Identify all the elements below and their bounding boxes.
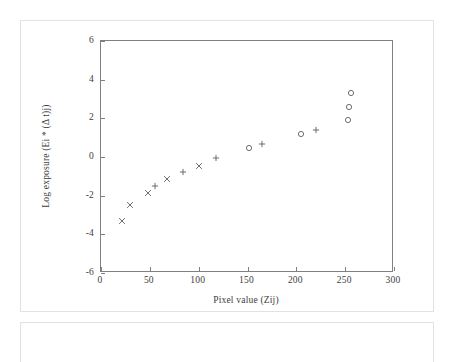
data-point-circle-markers (298, 131, 305, 138)
y-axis-tick (101, 118, 105, 119)
y-axis-tick-label: -4 (74, 228, 94, 238)
x-axis-tick-label: 200 (288, 275, 303, 285)
data-point-cross-markers (127, 202, 134, 209)
x-axis-tick (248, 267, 249, 271)
y-axis-title: Log exposure (Ei * (Δ t)j) (41, 104, 51, 207)
data-point-circle-markers (346, 103, 353, 110)
x-axis-tick-label: 300 (386, 275, 401, 285)
x-axis-tick (150, 267, 151, 271)
y-axis-tick (101, 196, 105, 197)
x-axis-tick (101, 267, 102, 271)
y-axis-tick (101, 157, 105, 158)
data-point-plus-markers (213, 154, 220, 161)
data-point-plus-markers (259, 141, 266, 148)
x-axis-tick (199, 267, 200, 271)
data-point-circle-markers (246, 145, 253, 152)
plot-area (100, 40, 393, 272)
x-axis-tick (345, 267, 346, 271)
data-point-plus-markers (312, 127, 319, 134)
data-point-cross-markers (119, 217, 126, 224)
data-point-plus-markers (151, 183, 158, 190)
y-axis-tick-label: 2 (74, 112, 94, 122)
x-axis-tick-label: 150 (239, 275, 254, 285)
x-axis-tick-label: 0 (98, 275, 103, 285)
x-axis-tick-label: 250 (337, 275, 352, 285)
y-axis-tick (101, 80, 105, 81)
data-point-plus-markers (180, 169, 187, 176)
y-axis-tick (101, 234, 105, 235)
x-axis-tick-label: 100 (190, 275, 205, 285)
y-axis-tick-label: 6 (74, 35, 94, 45)
y-axis-tick (101, 41, 105, 42)
y-axis-tick (101, 273, 105, 274)
y-axis-tick-label: 0 (74, 151, 94, 161)
data-point-cross-markers (195, 162, 202, 169)
scanned-page-frame-secondary (20, 322, 434, 362)
x-axis-title: Pixel value (Zij) (213, 295, 279, 305)
x-axis-tick (394, 267, 395, 271)
x-axis-tick (296, 267, 297, 271)
data-point-circle-markers (348, 90, 355, 97)
data-point-cross-markers (144, 189, 151, 196)
data-point-circle-markers (345, 116, 352, 123)
x-axis-tick-label: 50 (144, 275, 154, 285)
y-axis-tick-label: -2 (74, 190, 94, 200)
y-axis-tick-label: 4 (74, 74, 94, 84)
data-point-cross-markers (164, 176, 171, 183)
y-axis-tick-label: -6 (74, 267, 94, 277)
chart-figure: 050100150200250300 -6-4-20246 Pixel valu… (20, 20, 434, 312)
